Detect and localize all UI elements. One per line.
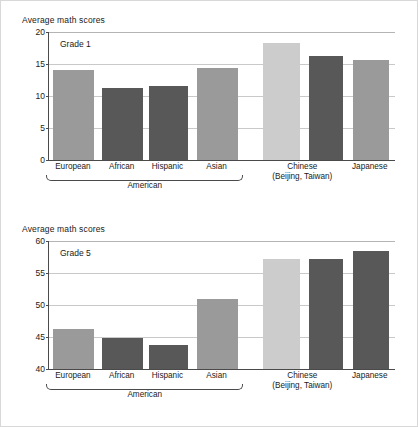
gridline	[49, 32, 395, 33]
y-axis-tick-label: 40	[36, 364, 45, 374]
bar-chinese-taiwan	[309, 259, 344, 369]
y-axis-tick-mark	[46, 32, 49, 33]
bar-japanese	[353, 60, 389, 160]
y-axis-tick-mark	[46, 64, 49, 65]
american-group-label-grade5: American	[127, 390, 162, 399]
x-axis-label-line1: African	[109, 162, 134, 171]
bar-chinese-beijing	[263, 259, 300, 369]
y-axis-tick-mark	[46, 241, 49, 242]
x-axis-label: Asian	[206, 371, 226, 380]
y-axis-tick-label: 50	[36, 300, 45, 310]
y-axis-tick-mark	[46, 128, 49, 129]
y-axis-tick-label: 20	[36, 27, 45, 37]
x-axis-label: Hispanic	[152, 371, 183, 380]
x-axis-label: Japanese	[352, 371, 388, 380]
panel-label-grade1: Grade 1	[60, 39, 91, 49]
bar-european-american	[53, 329, 94, 369]
y-axis-tick-mark	[46, 305, 49, 306]
bar-japanese	[353, 251, 389, 369]
y-axis-tick-mark	[46, 273, 49, 274]
y-axis-tick-mark	[46, 96, 49, 97]
panel-label-grade5: Grade 5	[60, 248, 91, 258]
y-axis-tick-mark	[46, 369, 49, 370]
x-axis-label-line1: European	[55, 371, 91, 380]
x-axis-label-line2: (Beijing, Taiwan)	[272, 381, 332, 390]
x-axis-label-line1: Japanese	[352, 162, 388, 171]
x-axis-label-line1: Asian	[206, 371, 226, 380]
bar-european-american	[53, 70, 94, 160]
x-axis-label-line1: European	[55, 162, 91, 171]
y-axis-tick-mark	[46, 160, 49, 161]
bar-asian-american	[197, 299, 238, 369]
x-axis-label: Chinese(Beijing, Taiwan)	[272, 162, 332, 181]
y-axis-tick-label: 55	[36, 268, 45, 278]
y-axis-tick-label: 10	[36, 91, 45, 101]
x-axis-label: Chinese(Beijing, Taiwan)	[272, 371, 332, 390]
x-axis-label-line1: Chinese	[287, 162, 317, 171]
chart-panel-grade5: Average math scores Grade 5 4045505560 E…	[1, 224, 418, 420]
axis-title-grade1: Average math scores	[22, 15, 105, 25]
figure-frame: Average math scores Grade 1 05101520 Eur…	[0, 0, 418, 427]
x-axis-label-line1: Hispanic	[152, 371, 183, 380]
y-axis-tick-label: 5	[40, 123, 45, 133]
x-axis-label: Hispanic	[152, 162, 183, 171]
y-axis-tick-label: 45	[36, 332, 45, 342]
y-axis-tick-label: 15	[36, 59, 45, 69]
x-axis-label: European	[55, 162, 91, 171]
x-axis-label-line1: Hispanic	[152, 162, 183, 171]
gridline	[49, 273, 395, 274]
axis-title-grade5: Average math scores	[22, 224, 105, 234]
x-axis-label-line1: Japanese	[352, 371, 388, 380]
plot-area-grade1: Grade 1 05101520	[48, 32, 395, 161]
x-axis-label-line2: (Beijing, Taiwan)	[272, 172, 332, 181]
y-axis-tick-mark	[46, 337, 49, 338]
gridline	[49, 241, 395, 242]
american-group-label-grade1: American	[127, 181, 162, 190]
x-axis-label: Asian	[206, 162, 226, 171]
x-axis-labels-grade5: EuropeanAfricanHispanicAsianChinese(Beij…	[48, 371, 394, 385]
y-axis-tick-label: 0	[40, 155, 45, 165]
bar-chinese-taiwan	[309, 56, 344, 160]
x-axis-label: Japanese	[352, 162, 388, 171]
gridline	[49, 64, 395, 65]
x-axis-label: African	[109, 162, 134, 171]
bar-hispanic-american	[149, 86, 188, 160]
bar-african-american	[102, 338, 143, 369]
bar-chinese-beijing	[263, 43, 300, 160]
y-axis-tick-label: 60	[36, 236, 45, 246]
bar-asian-american	[197, 68, 238, 160]
x-axis-label: African	[109, 371, 134, 380]
x-axis-label: European	[55, 371, 91, 380]
bar-african-american	[102, 88, 143, 160]
plot-area-grade5: Grade 5 4045505560	[48, 241, 395, 370]
bar-hispanic-american	[149, 345, 188, 369]
x-axis-labels-grade1: EuropeanAfricanHispanicAsianChinese(Beij…	[48, 162, 394, 176]
x-axis-label-line1: African	[109, 371, 134, 380]
x-axis-label-line1: Chinese	[287, 371, 317, 380]
x-axis-label-line1: Asian	[206, 162, 226, 171]
chart-panel-grade1: Average math scores Grade 1 05101520 Eur…	[1, 15, 418, 211]
